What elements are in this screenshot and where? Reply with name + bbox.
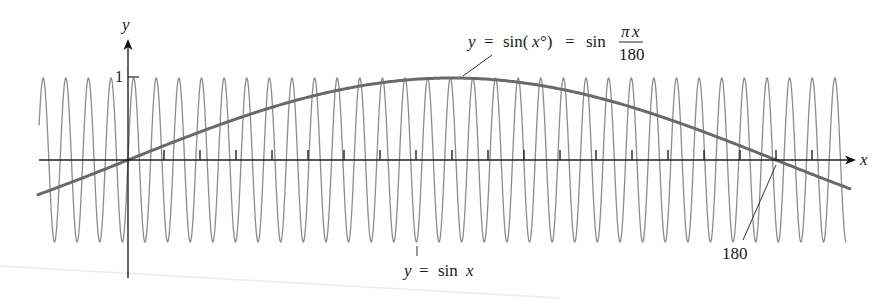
label-degree: °) [540,32,552,51]
label-sin: sin [438,261,458,280]
label-eq: = [484,32,494,51]
label-denominator: 180 [619,45,645,64]
label-x: x [465,261,474,280]
label-eq: = [419,261,429,280]
svg-text:π x: π x [621,22,640,41]
label-sin: sin [586,32,606,51]
label-pi: π [621,22,630,41]
scan-artifact-line [0,266,560,298]
y-axis-label: y [120,15,130,34]
label-x: x [631,22,640,41]
label-sin: sin( [503,32,529,51]
sin-degree-leader-line [463,55,492,76]
x-tick-label-180: 180 [722,244,748,263]
x-axis-ticks [164,150,812,160]
label-eq: = [565,32,575,51]
sin-x-label: y = sin x [402,261,474,280]
sine-comparison-chart: y x 1 y = sin( x °) = sin π x 180 y = si… [0,0,893,299]
x-axis-label: x [859,150,868,169]
label-y: y [466,32,476,51]
svg-text:y = sin( x: y = sin( x °) = sin [466,32,606,51]
label-x: x [531,32,540,51]
label-y: y [402,261,412,280]
y-tick-label-1: 1 [115,68,123,85]
x180-leader-line [743,165,776,240]
sin-degree-label: y = sin( x °) = sin π x 180 [466,22,645,64]
